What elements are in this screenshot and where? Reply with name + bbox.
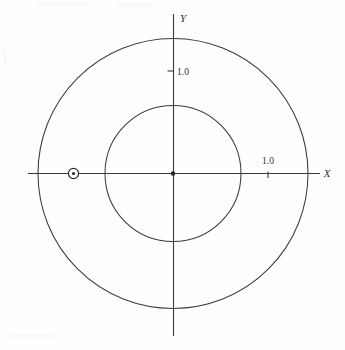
origin-point <box>171 171 176 176</box>
y-axis-label: Y <box>180 12 188 24</box>
x-tick-label-1: 1.0 <box>262 156 274 166</box>
y-tick-label-1: 1.0 <box>177 67 189 77</box>
circled-dot-marker-center <box>72 172 75 175</box>
figure-canvas: X Y 1.0 1.0 <box>0 0 345 350</box>
concentric-circles-plot: X Y 1.0 1.0 <box>0 0 345 350</box>
x-axis-label: X <box>323 167 332 179</box>
